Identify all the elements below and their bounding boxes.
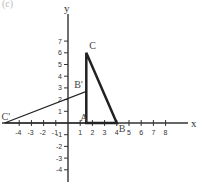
point-labels: ABCB'C' <box>2 40 126 134</box>
x-tick-label: 2 <box>90 129 94 136</box>
point-label-a: A <box>80 112 88 123</box>
y-tick-label: 7 <box>58 38 62 45</box>
x-tick-label: 8 <box>164 129 168 136</box>
y-tick-label: 3 <box>58 84 62 91</box>
y-tick-label: 6 <box>58 49 62 56</box>
x-tick-label: 1 <box>78 129 82 136</box>
x-axis-label: x <box>191 117 197 129</box>
y-tick-label: -4 <box>56 166 62 173</box>
x-tick-label: -3 <box>27 129 33 136</box>
point-label-c: C <box>89 40 96 51</box>
x-tick-label: 7 <box>151 129 155 136</box>
point-label-c-prime: C' <box>2 111 11 122</box>
point-label-b-prime: B' <box>74 79 83 90</box>
y-axis-label: y <box>64 2 70 14</box>
coordinate-plane: (c) x y -4-3-2-112345678 7654321-1-2-3-4… <box>0 0 201 182</box>
y-tick-label: -2 <box>56 143 62 150</box>
y-tick-label: 1 <box>58 108 62 115</box>
y-tick-label: -1 <box>56 131 62 138</box>
triangle-AB'C' <box>5 91 87 123</box>
axes: x y <box>2 2 197 182</box>
y-tick-label: 5 <box>58 61 62 68</box>
x-tick-label: 3 <box>103 129 107 136</box>
x-tick-label: -2 <box>40 129 46 136</box>
y-tick-label: -3 <box>56 155 62 162</box>
y-tick-label: 4 <box>58 73 62 80</box>
point-label-b: B <box>119 123 126 134</box>
x-tick-label: 5 <box>127 129 131 136</box>
y-ticks: 7654321-1-2-3-4 <box>56 38 68 174</box>
triangle-ABC <box>86 53 117 123</box>
x-tick-label: -4 <box>15 129 21 136</box>
x-tick-label: 6 <box>139 129 143 136</box>
figure-caption: (c) <box>2 0 13 10</box>
